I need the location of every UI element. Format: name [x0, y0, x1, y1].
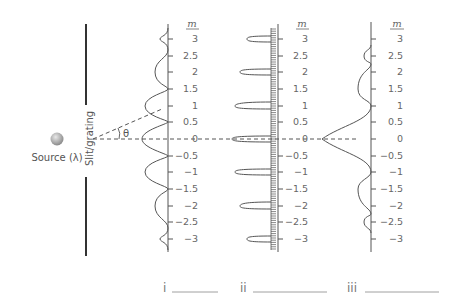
- svg-text:0.5: 0.5: [183, 116, 198, 127]
- svg-text:1.5: 1.5: [293, 83, 308, 94]
- answer-ii-label: ii: [240, 281, 247, 295]
- diffraction-diagram: Source (λ) Slit/grating θ m 3 2.5 2 1.5 …: [0, 0, 461, 299]
- svg-text:−0.5: −0.5: [285, 150, 308, 161]
- svg-text:0: 0: [397, 133, 403, 144]
- svg-text:−3: −3: [184, 233, 198, 244]
- svg-text:−1: −1: [294, 166, 308, 177]
- panel-ii-axis-header: m: [297, 18, 306, 29]
- panel-ii-peaks: [232, 36, 271, 242]
- panel-i-axis-header: m: [187, 18, 196, 29]
- svg-text:−2: −2: [184, 200, 198, 211]
- svg-text:2: 2: [192, 66, 198, 77]
- panel-iii-ticks: [371, 39, 376, 239]
- svg-text:−1.5: −1.5: [285, 183, 308, 194]
- svg-text:−2: −2: [294, 200, 308, 211]
- svg-text:0.5: 0.5: [293, 116, 308, 127]
- svg-text:1.5: 1.5: [183, 83, 198, 94]
- panel-iii-axis-header: m: [392, 18, 401, 29]
- svg-text:−1.5: −1.5: [380, 183, 403, 194]
- svg-text:−1: −1: [389, 166, 403, 177]
- svg-text:−2: −2: [389, 200, 403, 211]
- panel-iii: m 3 2.5 2 1.5 1 0.5 0 −0.5 −1 −1.5 −2 −2…: [322, 18, 404, 252]
- svg-text:3: 3: [397, 33, 403, 44]
- svg-text:0.5: 0.5: [388, 116, 403, 127]
- svg-text:3: 3: [192, 33, 198, 44]
- panel-i: m 3 2.5 2 1.5 1 0.5 0 −0.5 −1 −1.5 −2 −2…: [142, 18, 199, 252]
- svg-text:1: 1: [192, 100, 198, 111]
- answer-iii-label: iii: [347, 281, 357, 295]
- svg-text:1.5: 1.5: [388, 83, 403, 94]
- svg-text:−2.5: −2.5: [380, 216, 403, 227]
- light-source-icon: [51, 133, 64, 146]
- angle-arc: [118, 128, 120, 139]
- angle-label: θ: [123, 128, 129, 139]
- svg-text:0: 0: [302, 133, 308, 144]
- svg-text:−3: −3: [294, 233, 308, 244]
- svg-text:2.5: 2.5: [293, 50, 308, 61]
- svg-text:−3: −3: [389, 233, 403, 244]
- svg-text:0: 0: [192, 133, 198, 144]
- svg-text:1: 1: [302, 100, 308, 111]
- svg-text:2: 2: [302, 66, 308, 77]
- svg-text:2: 2: [397, 66, 403, 77]
- svg-text:−0.5: −0.5: [380, 150, 403, 161]
- svg-text:1: 1: [397, 100, 403, 111]
- svg-text:3: 3: [302, 33, 308, 44]
- svg-text:−2.5: −2.5: [175, 216, 198, 227]
- source-label: Source (λ): [31, 152, 82, 163]
- panel-ii: m 3 2.5 2 1.5 1 0.5 0 −0.5 −1 −1.5 −2 −2…: [232, 18, 309, 252]
- svg-text:−0.5: −0.5: [175, 150, 198, 161]
- svg-text:−1: −1: [184, 166, 198, 177]
- svg-text:2.5: 2.5: [388, 50, 403, 61]
- svg-text:−1.5: −1.5: [175, 183, 198, 194]
- answer-blanks: i ii iii: [163, 281, 439, 295]
- svg-text:2.5: 2.5: [183, 50, 198, 61]
- answer-i-label: i: [163, 281, 166, 295]
- svg-text:−2.5: −2.5: [285, 216, 308, 227]
- panel-ii-secondary-fringes: [271, 29, 276, 249]
- panel-iii-tick-labels: 3 2.5 2 1.5 1 0.5 0 −0.5 −1 −1.5 −2 −2.5…: [380, 33, 403, 244]
